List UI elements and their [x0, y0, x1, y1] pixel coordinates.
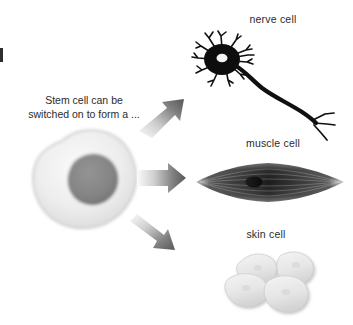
arrow-to-skin-cell: [130, 214, 175, 250]
diagram-illustrations: [0, 0, 353, 325]
arrow-to-muscle-cell: [137, 163, 186, 193]
label-muscle-cell: muscle cell: [246, 136, 300, 150]
skin-cell-illustration: [225, 252, 314, 312]
stem-cell-caption: Stem cell can be switched on to form a .…: [18, 93, 150, 121]
caption-line-1: Stem cell can be: [18, 93, 150, 107]
stem-cell-differentiation-diagram: Stem cell can be switched on to form a .…: [0, 0, 353, 325]
label-skin-cell: skin cell: [246, 227, 285, 241]
muscle-cell-illustration: [190, 158, 348, 208]
caption-line-2: switched on to form a ...: [18, 107, 150, 121]
label-nerve-cell: nerve cell: [250, 12, 297, 26]
nerve-cell-illustration: [192, 31, 335, 140]
stem-cell-illustration: [33, 130, 136, 228]
